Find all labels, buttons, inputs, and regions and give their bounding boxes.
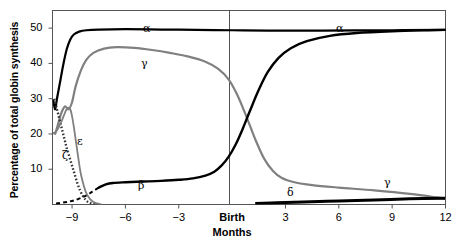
x-tick-marks [72,205,445,209]
globin-synthesis-chart: Percentage of total globin synthesis 102… [0,0,469,239]
x-axis-title: Months [202,226,262,238]
x-tick-label: 12 [431,211,461,223]
x-tick-label-birth: Birth [207,211,257,223]
y-tick-label: 30 [17,92,43,104]
gamma-label-right: γ [384,176,391,189]
x-tick-label: 9 [377,211,407,223]
y-tick-label: 50 [17,21,43,33]
alpha-label-left: α [143,22,150,35]
beta-label: β [138,179,144,192]
x-tick-label: −9 [57,211,87,223]
x-tick-label: 6 [324,211,354,223]
epsilon-label: ε [77,135,83,148]
gamma-label-left: γ [141,57,148,70]
y-tick-label: 40 [17,56,43,68]
chart-plot-area [0,0,469,239]
delta-label: δ [287,186,294,199]
y-tick-marks [49,28,53,169]
x-tick-label: −6 [110,211,140,223]
y-tick-label: 20 [17,127,43,139]
x-tick-label: 3 [270,211,300,223]
y-tick-label: 10 [17,162,43,174]
alpha-label-right: α [336,22,343,35]
x-tick-label: −3 [164,211,194,223]
zeta-label: ζ [62,149,68,162]
